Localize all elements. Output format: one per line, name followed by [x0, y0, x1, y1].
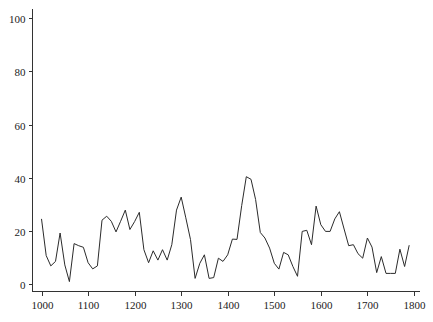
x-tick-label: 1700 [357, 299, 380, 311]
x-tick-label: 1200 [125, 299, 148, 311]
x-tick-label: 1600 [311, 299, 334, 311]
data-line [42, 177, 410, 282]
x-tick-label: 1500 [264, 299, 287, 311]
x-axis: 100011001200130014001500160017001800 [32, 292, 427, 311]
line-chart: 020406080100 100011001200130014001500160… [0, 0, 433, 322]
y-tick-label: 40 [15, 173, 27, 185]
x-tick-label: 1800 [404, 299, 427, 311]
x-tick-label: 1400 [218, 299, 241, 311]
y-tick-label: 20 [15, 226, 27, 238]
y-tick-label: 80 [15, 66, 27, 78]
plot-area [42, 177, 410, 282]
y-axis: 020406080100 [9, 9, 33, 292]
y-tick-label: 100 [9, 13, 26, 25]
x-tick-label: 1300 [171, 299, 194, 311]
x-tick-label: 1100 [78, 299, 100, 311]
x-tick-label: 1000 [32, 299, 55, 311]
y-tick-label: 60 [15, 120, 27, 132]
y-tick-label: 0 [20, 279, 26, 291]
